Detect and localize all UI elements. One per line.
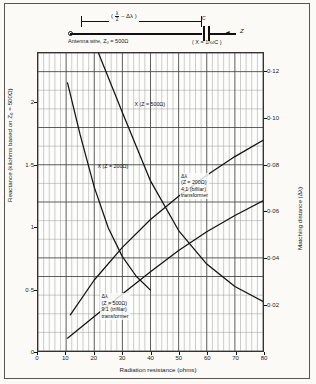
y-right-tick-mark	[264, 211, 267, 212]
curve--z-500-9-1-trifilar-transformer	[68, 201, 263, 338]
reactance-formula-label: ( X = 1/ωC )	[192, 39, 222, 45]
y-left-tick-mark	[34, 290, 37, 291]
antenna-schematic: ( λ 2 − Δλ ) C ◄ Z Antenna wire, Z₀ = 50…	[6, 3, 300, 49]
y-axis-left-label: Reactance (kilohms based on Z₀ = 500Ω)	[6, 88, 13, 202]
y-left-tick-mark	[34, 227, 37, 228]
y-right-tick-label: 0·08	[267, 162, 279, 168]
y-right-tick-mark	[264, 305, 267, 306]
y-axis-right-label: Matching distance (Δλ)	[296, 187, 303, 250]
impedance-label: Z	[240, 28, 244, 34]
fraction-denominator: 2	[115, 17, 120, 22]
annotation-dl-200: Δλ(Z = 200Ω)4:1 (bifilar)transformer	[180, 173, 209, 199]
y-right-tick-label: 0·02	[267, 302, 279, 308]
capacitor-label: C	[202, 15, 206, 21]
x-tick-mark	[264, 352, 265, 355]
dimension-label: ( λ 2 − Δλ )	[109, 11, 139, 23]
y-right-tick-mark	[264, 118, 267, 119]
x-tick-mark	[122, 352, 123, 355]
x-tick-label: 60	[204, 355, 211, 361]
x-tick-label: 10	[62, 355, 69, 361]
curve-x-z-200-	[68, 83, 151, 290]
y-right-tick-label: 0·04	[267, 255, 279, 261]
x-tick-mark	[207, 352, 208, 355]
x-tick-mark	[94, 352, 95, 355]
y-left-tick-label: 1·5	[25, 162, 34, 168]
dimension-line	[81, 21, 202, 22]
figure-page: ( λ 2 − Δλ ) C ◄ Z Antenna wire, Z₀ = 50…	[0, 0, 316, 384]
x-tick-mark	[236, 352, 237, 355]
x-tick-label: 80	[261, 355, 268, 361]
y-left-tick-label: 0·5	[25, 287, 34, 293]
dimension-tick-left	[81, 16, 82, 27]
y-right-tick-label: 0·06	[267, 208, 279, 214]
plot-frame: X (Z = 500Ω) X (Z = 200Ω) Δλ(Z = 200Ω)4:…	[37, 52, 264, 352]
annotation-dl-500: Δλ(Z = 500Ω)9:1 (trifilar)transformer	[100, 293, 129, 319]
impedance-arrow-icon: ◄	[224, 29, 231, 36]
y-right-tick-mark	[264, 71, 267, 72]
annotation-x-500: X (Z = 500Ω)	[134, 101, 165, 108]
chart-area: X (Z = 500Ω) X (Z = 200Ω) Δλ(Z = 200Ω)4:…	[37, 52, 264, 352]
antenna-wire-label: Antenna wire, Z₀ = 500Ω	[68, 38, 128, 44]
x-axis-label: Radiation resistance (ohms)	[0, 366, 316, 373]
y-right-tick-mark	[264, 258, 267, 259]
x-tick-label: 30	[119, 355, 126, 361]
y-right-tick-label: 0·10	[267, 115, 279, 121]
x-tick-mark	[37, 352, 38, 355]
antenna-wire-line	[70, 33, 202, 35]
x-tick-mark	[65, 352, 66, 355]
half-lambda-fraction: λ 2	[115, 11, 120, 23]
dimension-prefix: (	[111, 13, 113, 19]
y-left-tick-mark	[34, 102, 37, 103]
y-right-tick-label: 0·12	[267, 68, 279, 74]
dimension-suffix: − Δλ )	[121, 13, 137, 19]
y-left-tick-mark	[34, 165, 37, 166]
x-tick-label: 40	[147, 355, 154, 361]
x-tick-label: 70	[232, 355, 239, 361]
x-tick-label: 0	[35, 355, 38, 361]
x-tick-mark	[151, 352, 152, 355]
data-curves	[38, 53, 263, 351]
x-tick-label: 50	[176, 355, 183, 361]
x-tick-label: 20	[90, 355, 97, 361]
feed-line	[210, 33, 236, 35]
x-tick-mark	[179, 352, 180, 355]
y-right-tick-mark	[264, 165, 267, 166]
annotation-x-200: X (Z = 200Ω)	[98, 163, 129, 170]
